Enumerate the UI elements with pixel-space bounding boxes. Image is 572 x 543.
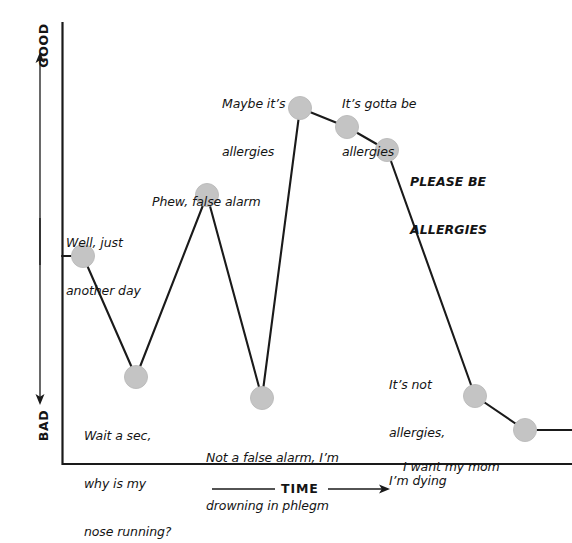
annotation-line: I want my mom xyxy=(403,459,500,475)
annotation-line: Well, just xyxy=(66,235,141,251)
annotation-i-want-my-mom: I want my mom xyxy=(403,427,500,507)
annotation-line: It’s gotta be xyxy=(342,96,416,112)
annotation-its-gotta-be-allergies: It’s gotta be allergies xyxy=(342,64,416,192)
annotation-line: allergies xyxy=(342,144,416,160)
annotation-maybe-its-allergies: Maybe it’s allergies xyxy=(222,64,285,192)
annotation-line: drowning in phlegm xyxy=(206,498,339,514)
y-axis-bad-label: BAD xyxy=(36,403,51,449)
data-point-marker[interactable] xyxy=(125,366,148,389)
annotation-line: Phew, false alarm xyxy=(152,194,261,210)
annotation-well-just-another-day: Well, just another day xyxy=(66,203,141,331)
annotation-line: PLEASE BE xyxy=(410,174,487,190)
annotation-wait-a-sec: Wait a sec, why is my nose running? xyxy=(84,396,171,543)
annotation-not-a-false-alarm: Not a false alarm, I’m drowning in phleg… xyxy=(206,418,339,543)
annotation-line: It’s not xyxy=(389,377,447,393)
y-axis-good-label: GOOD xyxy=(36,20,51,72)
data-point-marker[interactable] xyxy=(251,387,274,410)
annotation-please-be-allergies: PLEASE BE ALLERGIES xyxy=(410,142,487,270)
data-point-marker[interactable] xyxy=(464,385,487,408)
annotation-line: Not a false alarm, I’m xyxy=(206,450,339,466)
annotation-line: Wait a sec, xyxy=(84,428,171,444)
data-point-marker[interactable] xyxy=(514,419,537,442)
annotation-line: ALLERGIES xyxy=(410,222,487,238)
annotation-line: why is my xyxy=(84,476,171,492)
data-point-marker[interactable] xyxy=(289,97,312,120)
annotation-line: Maybe it’s xyxy=(222,96,285,112)
annotation-line: nose running? xyxy=(84,524,171,540)
annotation-line: allergies xyxy=(222,144,285,160)
annotation-line: another day xyxy=(66,283,141,299)
